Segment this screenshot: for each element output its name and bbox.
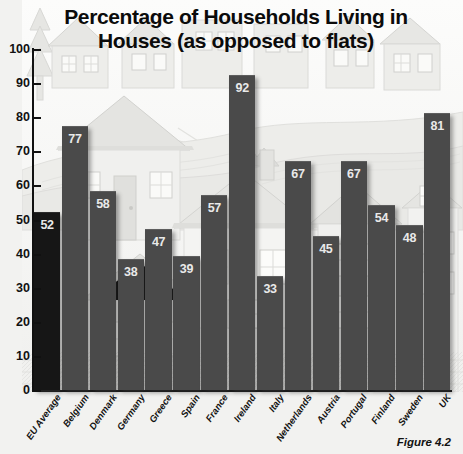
- y-axis-tick-label: 30: [2, 282, 30, 294]
- bar-spain: 39: [173, 256, 199, 390]
- x-axis-label-italy: Italy: [266, 392, 286, 414]
- x-axis-label-sweden: Sweden: [396, 392, 426, 428]
- chart-figure: Percentage of Households Living in House…: [0, 0, 463, 454]
- bar-value-label: 48: [396, 231, 422, 245]
- figure-caption: Figure 4.2: [397, 436, 451, 448]
- x-axis-labels: EU AverageBelgiumDenmarkGermanyGreeceSpa…: [0, 392, 463, 454]
- bars-container: 527758384739579233674567544881: [34, 49, 452, 390]
- chart-title-line1: Percentage of Households Living in: [64, 5, 407, 28]
- y-axis-tick-label: 90: [2, 77, 30, 89]
- bar-value-label: 67: [285, 167, 311, 181]
- y-axis-tick-label: 10: [2, 350, 30, 362]
- bar-value-label: 38: [118, 265, 144, 279]
- bar-germany: 38: [118, 259, 144, 390]
- bar-france: 57: [201, 195, 227, 390]
- x-axis-label-portugal: Portugal: [338, 392, 369, 430]
- x-axis-label-greece: Greece: [147, 392, 174, 425]
- x-axis-label-ireland: Ireland: [231, 392, 258, 424]
- bar-denmark: 58: [90, 191, 116, 390]
- bar-value-label: 67: [341, 167, 367, 181]
- bar-greece: 47: [145, 229, 171, 390]
- bar-value-label: 54: [368, 211, 394, 225]
- y-axis-labels: 0102030405060708090100: [0, 0, 30, 454]
- y-axis-tick-mark: [34, 356, 41, 358]
- x-axis-label-eu-average: EU Average: [24, 392, 63, 442]
- bar-ireland: 92: [229, 75, 255, 390]
- y-axis-tick-mark: [34, 322, 41, 324]
- bar-value-label: 77: [62, 132, 88, 146]
- bar-value-label: 47: [145, 235, 171, 249]
- bar-italy: 33: [257, 276, 283, 390]
- x-axis-label-uk: UK: [436, 392, 453, 410]
- y-axis-tick-label: 80: [2, 111, 30, 123]
- bar-value-label: 33: [257, 282, 283, 296]
- y-axis-tick-label: 50: [2, 214, 30, 226]
- bar-portugal: 67: [341, 161, 367, 390]
- x-axis-label-spain: Spain: [178, 392, 202, 420]
- y-axis-tick-label: 20: [2, 316, 30, 328]
- y-axis-tick-mark: [34, 220, 41, 222]
- y-axis-tick-mark: [34, 390, 41, 392]
- bar-finland: 54: [368, 205, 394, 390]
- bar-eu-average: 52: [34, 212, 60, 390]
- bar-sweden: 48: [396, 225, 422, 390]
- y-axis-tick-label: 60: [2, 179, 30, 191]
- y-axis-tick-label: 40: [2, 248, 30, 260]
- bar-value-label: 92: [229, 81, 255, 95]
- bar-value-label: 39: [173, 262, 199, 276]
- bar-value-label: 57: [201, 201, 227, 215]
- chart-title-line2: Houses (as opposed to flats): [30, 29, 442, 53]
- chart-title: Percentage of Households Living in House…: [30, 5, 442, 53]
- bar-netherlands: 67: [285, 161, 311, 390]
- bar-value-label: 81: [424, 119, 450, 133]
- bar-uk: 81: [424, 113, 450, 390]
- x-axis-label-finland: Finland: [369, 392, 397, 426]
- y-axis-tick-mark: [34, 185, 41, 187]
- x-axis-label-belgium: Belgium: [60, 392, 91, 429]
- bar-belgium: 77: [62, 126, 88, 390]
- y-axis-tick-mark: [34, 288, 41, 290]
- y-axis-tick-mark: [34, 254, 41, 256]
- y-axis-tick-mark: [34, 151, 41, 153]
- x-axis-label-france: France: [203, 392, 230, 424]
- bar-value-label: 58: [90, 197, 116, 211]
- y-axis-tick-label: 70: [2, 145, 30, 157]
- y-axis-tick-mark: [34, 83, 41, 85]
- x-axis-label-austria: Austria: [314, 392, 342, 425]
- y-axis-tick-mark: [34, 117, 41, 119]
- bar-austria: 45: [313, 236, 339, 390]
- y-axis-tick-label: 100: [2, 43, 30, 55]
- bar-value-label: 45: [313, 242, 339, 256]
